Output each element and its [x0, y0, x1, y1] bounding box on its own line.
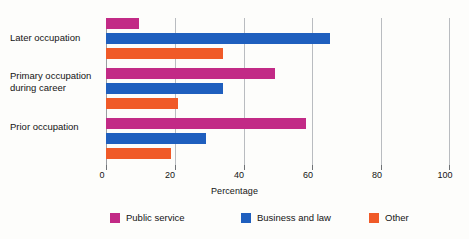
x-axis-title: Percentage [0, 186, 469, 196]
legend-item-public-service[interactable]: Public service [110, 212, 185, 223]
legend-item-other[interactable]: Other [369, 212, 409, 223]
bar-row-prior-business-and-law [106, 133, 206, 144]
category-label-prior-occupation: Prior occupation [10, 121, 102, 133]
bar-later-public-service[interactable] [106, 18, 139, 29]
bar-group-primary-occupation [106, 68, 450, 115]
bar-row-primary-business-and-law [106, 83, 223, 94]
bar-group-later-occupation [106, 18, 450, 65]
legend-swatch-public-service [110, 213, 120, 223]
category-label-primary-occupation: Primary occupation during career [10, 70, 102, 93]
bar-primary-public-service[interactable] [106, 68, 275, 79]
bar-prior-other[interactable] [106, 148, 171, 159]
tick-label-60: 60 [303, 170, 313, 180]
bar-row-prior-public-service [106, 118, 306, 129]
legend-swatch-business-and-law [241, 213, 251, 223]
bar-row-later-business-and-law [106, 33, 330, 44]
bar-chart: Later occupation Primary occupation duri… [0, 0, 469, 239]
legend-label-business-and-law: Business and law [257, 212, 331, 223]
bar-prior-business-and-law[interactable] [106, 133, 206, 144]
bar-prior-public-service[interactable] [106, 118, 306, 129]
bar-group-prior-occupation [106, 118, 450, 165]
tick-label-40: 40 [234, 170, 244, 180]
bar-row-primary-public-service [106, 68, 275, 79]
bar-primary-other[interactable] [106, 98, 178, 109]
tick-mark-0 [106, 165, 107, 170]
legend-label-other: Other [385, 212, 409, 223]
bar-row-prior-other [106, 148, 171, 159]
category-label-later-occupation: Later occupation [10, 32, 102, 44]
legend-label-public-service: Public service [126, 212, 185, 223]
bar-row-later-public-service [106, 18, 139, 29]
bar-row-primary-other [106, 98, 178, 109]
x-axis: 0 20 40 60 80 100 [106, 165, 450, 181]
legend-item-business-and-law[interactable]: Business and law [241, 212, 331, 223]
bar-row-later-other [106, 48, 223, 59]
bar-later-business-and-law[interactable] [106, 33, 330, 44]
tick-label-20: 20 [165, 170, 175, 180]
plot-area [106, 18, 450, 165]
category-axis-labels: Later occupation Primary occupation duri… [10, 18, 102, 165]
bar-later-other[interactable] [106, 48, 223, 59]
legend-swatch-other [369, 213, 379, 223]
chart-legend: Public service Business and law Other [106, 212, 446, 228]
tick-label-100: 100 [437, 170, 452, 180]
bar-primary-business-and-law[interactable] [106, 83, 223, 94]
tick-label-0: 0 [99, 170, 104, 180]
tick-label-80: 80 [372, 170, 382, 180]
